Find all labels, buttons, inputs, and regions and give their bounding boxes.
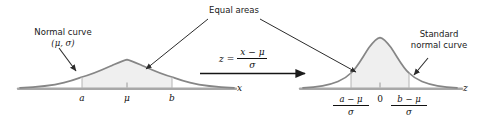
- equal-areas-label: Equal areas: [194, 5, 274, 16]
- formula-fraction: x − μ σ: [237, 47, 267, 70]
- formula-equals: =: [227, 54, 235, 64]
- transformation-formula: z = x − μ σ: [219, 47, 267, 70]
- right-tick-label-b-standardized: b − μ σ: [391, 94, 427, 117]
- right-tick-b-fraction-bar: [391, 105, 427, 106]
- right-axis-label-z: z: [463, 83, 468, 93]
- left-axis-label-x: x: [237, 83, 242, 93]
- right-tick-b-denominator: σ: [391, 107, 427, 117]
- right-tick-label-zero: 0: [372, 94, 388, 104]
- right-tick-label-a-standardized: a − μ σ: [333, 94, 369, 117]
- right-tick-a-denominator: σ: [333, 107, 369, 117]
- left-tick-label-b: b: [162, 93, 182, 103]
- normal-curve-label: Normal curve (μ, σ): [18, 27, 108, 48]
- formula-denominator: σ: [237, 60, 267, 70]
- standard-normal-curve-label-line1: Standard: [420, 29, 459, 39]
- standard-normal-curve-label: Standard normal curve: [396, 29, 482, 50]
- standard-normal-curve-label-line2: normal curve: [411, 40, 467, 50]
- normal-curve-label-line1: Normal curve: [34, 27, 91, 37]
- formula-fraction-bar: [237, 58, 267, 59]
- left-tick-label-a: a: [72, 93, 92, 103]
- formula-numerator: x − μ: [237, 47, 267, 57]
- right-tick-a-numerator: a − μ: [333, 94, 369, 104]
- right-tick-a-fraction-bar: [333, 105, 369, 106]
- standard-normal-curve-label-arrow: [414, 58, 428, 75]
- right-tick-b-numerator: b − μ: [391, 94, 427, 104]
- equal-areas-arrow-right: [260, 19, 356, 72]
- normal-curve-label-arrow: [59, 48, 76, 71]
- equal-areas-arrow-left: [146, 19, 208, 69]
- formula-lhs: z: [219, 54, 224, 64]
- normal-curve-standardization-figure: Normal curve (μ, σ) Equal areas Standard…: [0, 0, 486, 132]
- normal-curve-label-params: (μ, σ): [51, 38, 74, 48]
- left-tick-label-mu: μ: [117, 93, 137, 103]
